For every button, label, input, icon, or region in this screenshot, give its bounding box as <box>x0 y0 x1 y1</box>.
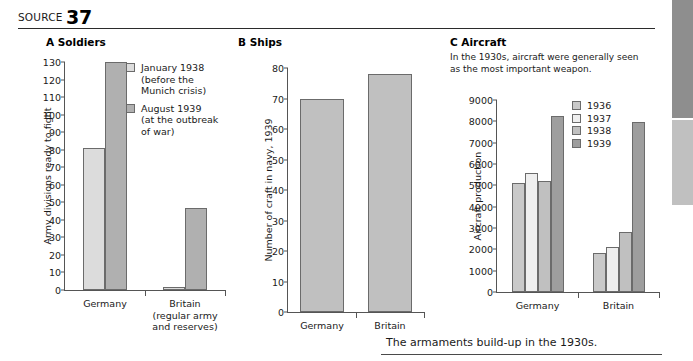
page-edge-tab-light <box>672 120 693 205</box>
y-axis-tick-mark <box>61 237 65 238</box>
chart-b-y-axis-title: Number of craft in navy, 1939 <box>263 68 274 312</box>
y-axis-tick-mark <box>284 251 288 252</box>
x-axis-group-label: Germany <box>300 320 344 332</box>
chart-a-y-axis-title: Army divisions ready to fight <box>42 62 53 290</box>
bar-germany-1936 <box>512 183 525 292</box>
figure-caption: The armaments build-up in the 1930s. <box>386 336 658 349</box>
legend-item: 1938 <box>572 125 642 137</box>
y-axis-tick-mark <box>284 220 288 221</box>
legend-swatch-icon <box>572 101 581 110</box>
bar-germany-number <box>300 99 344 313</box>
y-axis-tick-mark <box>493 270 497 271</box>
y-axis-tick-mark <box>61 132 65 133</box>
legend-item-label: 1937 <box>587 113 611 124</box>
y-axis-tick-mark <box>493 206 497 207</box>
legend-swatch-icon <box>126 104 135 113</box>
y-axis-tick-mark <box>61 254 65 255</box>
bar-britain-january <box>163 287 185 291</box>
y-axis-tick-mark <box>61 97 65 98</box>
chart-b-plot-area: 01020304050607080GermanyBritain <box>287 68 424 313</box>
source-number-label: 37 <box>66 6 92 28</box>
y-axis-tick-mark <box>61 62 65 63</box>
y-axis-tick-mark <box>284 190 288 191</box>
page-edge-tab-dark <box>672 0 693 118</box>
panel-soldiers: A Soldiers 01020304050607080901001101201… <box>18 36 230 336</box>
legend-item-label: January 1938(before theMunich crisis) <box>141 62 206 96</box>
y-axis-tick-mark <box>61 79 65 80</box>
x-axis-group-separator <box>356 312 357 318</box>
y-axis-tick-mark <box>493 121 497 122</box>
panel-c-title: C Aircraft <box>450 36 506 48</box>
y-axis-tick-mark <box>61 290 65 291</box>
caption-divider <box>381 354 662 355</box>
panel-b-title: B Ships <box>238 36 282 48</box>
y-axis-tick-mark <box>284 68 288 69</box>
source-word-label: SOURCE <box>18 11 63 23</box>
bar-britain-1936 <box>593 253 606 292</box>
y-axis-tick-mark <box>493 185 497 186</box>
panel-a-title: A Soldiers <box>46 36 106 48</box>
bar-germany-1938 <box>538 181 551 292</box>
y-axis-tick-mark <box>493 164 497 165</box>
legend-swatch-icon <box>572 114 581 123</box>
x-axis-group-separator <box>578 292 579 298</box>
y-axis-tick-mark <box>61 219 65 220</box>
x-axis-group-label: Britain(regular armyand reserves) <box>152 298 217 333</box>
legend-item: January 1938(before theMunich crisis) <box>126 62 232 97</box>
legend-item: 1936 <box>572 100 642 112</box>
bar-germany-august <box>105 62 127 290</box>
chart-a-legend: January 1938(before theMunich crisis)Aug… <box>126 62 232 140</box>
source-header: SOURCE 37 <box>18 6 658 32</box>
legend-item-label: 1939 <box>587 138 611 149</box>
y-axis-tick-mark <box>284 312 288 313</box>
legend-swatch-icon <box>572 126 581 135</box>
legend-swatch-icon <box>126 63 135 72</box>
y-axis-tick-mark <box>493 292 497 293</box>
panel-ships: B Ships 01020304050607080GermanyBritainN… <box>238 36 428 336</box>
y-axis-tick-label: 0 <box>278 307 284 318</box>
y-axis-tick-mark <box>284 98 288 99</box>
bar-germany-1939 <box>551 116 564 292</box>
y-axis-tick-label: 0 <box>55 285 61 296</box>
x-axis-group-label: Germany <box>516 300 560 312</box>
panel-aircraft: C Aircraft In the 1930s, aircraft were g… <box>450 36 665 336</box>
x-axis-group-label: Britain <box>374 320 405 332</box>
legend-item: 1939 <box>572 138 642 150</box>
y-axis-tick-mark <box>61 202 65 203</box>
legend-item: 1937 <box>572 113 642 125</box>
bar-britain-1938 <box>619 232 632 292</box>
panel-c-intro-text: In the 1930s, aircraft were generally se… <box>450 51 646 75</box>
y-axis-tick-mark <box>284 159 288 160</box>
y-axis-tick-mark <box>493 249 497 250</box>
bar-germany-january <box>83 148 105 290</box>
chart-c-y-axis-title: Aircraft production <box>472 100 483 292</box>
y-axis-tick-mark <box>61 167 65 168</box>
header-divider <box>18 28 655 29</box>
y-axis-tick-label: 0 <box>487 287 493 298</box>
y-axis-tick-mark <box>493 142 497 143</box>
legend-item-label: August 1939(at the outbreakof war) <box>141 103 218 137</box>
legend-item-label: 1938 <box>587 125 611 136</box>
bar-britain-1937 <box>606 247 619 292</box>
x-axis-group-label: Britain <box>603 300 634 312</box>
y-axis-tick-mark <box>284 281 288 282</box>
y-axis-tick-mark <box>61 149 65 150</box>
x-axis-end-tick <box>424 312 425 318</box>
y-axis-tick-mark <box>61 184 65 185</box>
x-axis-group-label: Germany <box>83 298 127 310</box>
x-axis-group-separator <box>145 290 146 296</box>
x-axis-end-tick <box>659 292 660 298</box>
x-axis-end-tick <box>225 290 226 296</box>
legend-item-label: 1936 <box>587 100 611 111</box>
y-axis-tick-mark <box>61 272 65 273</box>
chart-c-legend: 1936193719381939 <box>572 100 642 150</box>
bar-britain-number <box>368 74 412 312</box>
y-axis-tick-mark <box>493 228 497 229</box>
legend-item: August 1939(at the outbreakof war) <box>126 103 232 138</box>
legend-swatch-icon <box>572 139 581 148</box>
y-axis-tick-mark <box>284 129 288 130</box>
bar-britain-august <box>185 208 207 290</box>
bar-germany-1937 <box>525 173 538 292</box>
y-axis-tick-mark <box>493 100 497 101</box>
y-axis-tick-mark <box>61 114 65 115</box>
